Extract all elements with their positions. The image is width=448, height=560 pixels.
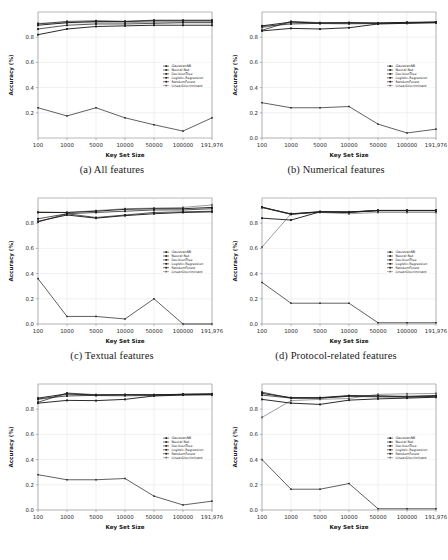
data-point-marker [348, 395, 350, 397]
data-point-marker [406, 210, 408, 212]
data-point-marker [153, 24, 155, 26]
x-tick-label: 1000 [60, 514, 74, 520]
x-tick-label: 191,976 [425, 328, 448, 334]
data-point-marker [95, 217, 97, 219]
data-point-marker [211, 207, 213, 209]
y-tick-label: 0.2 [249, 110, 258, 116]
data-point-marker [377, 322, 379, 324]
legend-marker-3 [389, 263, 391, 265]
legend-marker-5 [165, 271, 167, 273]
y-tick-label: 0.4 [25, 457, 34, 463]
legend-marker-2 [165, 445, 167, 447]
x-tick-label: 1000 [60, 328, 74, 334]
data-point-marker [153, 124, 155, 126]
x-axis-title: Key Set Size [105, 524, 144, 531]
legend-marker-5 [389, 271, 391, 273]
legend-marker-2 [165, 73, 167, 75]
data-point-marker [95, 107, 97, 109]
data-point-marker [66, 22, 68, 24]
x-tick-label: 100 [33, 142, 44, 148]
legend-marker-3 [165, 449, 167, 451]
figure-multi-panel-accuracy-charts: 100100050001000050000100000191,976Key Se… [0, 0, 448, 560]
y-axis-title: Accuracy (%) [232, 54, 239, 96]
x-tick-label: 100000 [173, 142, 194, 148]
legend-c: GaussianNBNeural NetDecisionTreeLogistic… [161, 249, 209, 274]
data-point-marker [66, 393, 68, 395]
data-point-marker [348, 213, 350, 215]
data-point-marker [182, 130, 184, 132]
data-point-marker [124, 210, 126, 212]
legend-d: GaussianNBNeural NetDecisionTreeLogistic… [385, 249, 433, 274]
x-tick-label: 10000 [116, 142, 134, 148]
legend-marker-2 [389, 73, 391, 75]
x-tick-label: 10000 [340, 142, 358, 148]
legend-a: GaussianNBNeural NetDecisionTreeLogistic… [161, 63, 209, 88]
legend-marker-2 [165, 259, 167, 261]
data-point-marker [377, 398, 379, 400]
data-point-marker [406, 132, 408, 134]
plot-area-a: 100100050001000050000100000191,976Key Se… [0, 0, 224, 165]
plot-area-d: 100100050001000050000100000191,976Key Se… [224, 186, 448, 351]
data-point-marker [435, 393, 437, 395]
y-tick-label: 0.4 [249, 85, 258, 91]
data-point-marker [182, 21, 184, 23]
x-tick-label: 50000 [145, 514, 163, 520]
y-tick-label: 0.0 [249, 135, 258, 141]
data-point-marker [435, 395, 437, 397]
data-point-marker [66, 24, 68, 26]
plot-area-c: 100100050001000050000100000191,976Key Se… [0, 186, 224, 351]
data-point-marker [261, 398, 263, 400]
x-tick-label: 5000 [313, 514, 327, 520]
legend-marker-2 [389, 445, 391, 447]
data-point-marker [211, 24, 213, 26]
y-axis-title: Accuracy (%) [8, 426, 15, 468]
x-tick-label: 100000 [397, 514, 418, 520]
data-point-marker [377, 395, 379, 397]
legend-marker-3 [165, 77, 167, 79]
data-point-marker [153, 395, 155, 397]
legend-label-5: LinearDiscriminant [172, 456, 204, 460]
data-point-marker [66, 399, 68, 401]
y-tick-label: 0.4 [249, 271, 258, 277]
data-point-marker [37, 220, 39, 222]
data-point-marker [319, 23, 321, 25]
data-point-marker [348, 399, 350, 401]
legend-marker-1 [389, 441, 391, 443]
data-point-marker [95, 26, 97, 28]
data-point-marker [124, 318, 126, 320]
data-point-marker [319, 398, 321, 400]
data-point-marker [290, 397, 292, 399]
legend-marker-0 [165, 65, 167, 67]
panel-caption-d: (d) Protocol-related features [224, 350, 448, 361]
y-tick-label: 0.6 [249, 59, 258, 65]
data-point-marker [348, 106, 350, 108]
data-point-marker [261, 246, 263, 248]
data-point-marker [66, 316, 68, 318]
data-point-marker [406, 322, 408, 324]
y-tick-label: 0.0 [249, 321, 258, 327]
data-point-marker [124, 117, 126, 119]
panel-b: 100100050001000050000100000191,976Key Se… [224, 0, 448, 190]
data-point-marker [406, 395, 408, 397]
x-tick-label: 100 [257, 328, 268, 334]
data-point-marker [319, 403, 321, 405]
data-point-marker [95, 22, 97, 24]
data-point-marker [182, 212, 184, 214]
x-tick-label: 191,976 [201, 514, 224, 520]
data-point-marker [182, 504, 184, 506]
legend-marker-4 [165, 267, 167, 269]
data-point-marker [153, 495, 155, 497]
data-point-marker [290, 213, 292, 215]
plot-area-f: 100100050001000050000100000191,976Key Se… [224, 372, 448, 537]
data-point-marker [319, 28, 321, 30]
data-point-marker [95, 316, 97, 318]
data-point-marker [95, 395, 97, 397]
x-tick-label: 1000 [284, 514, 298, 520]
data-point-marker [435, 210, 437, 212]
legend-marker-1 [389, 69, 391, 71]
legend-b: GaussianNBNeural NetDecisionTreeLogistic… [385, 63, 433, 88]
data-point-marker [290, 22, 292, 24]
x-tick-label: 1000 [60, 142, 74, 148]
data-point-marker [37, 107, 39, 109]
y-tick-label: 0.6 [25, 431, 34, 437]
